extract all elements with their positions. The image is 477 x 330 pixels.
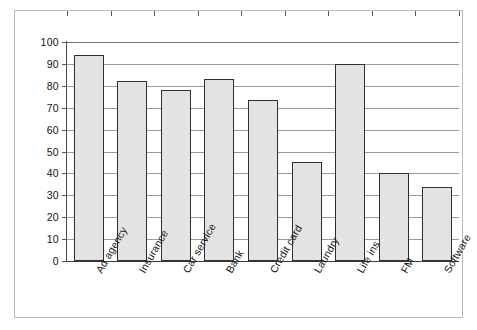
category-axis-tick: [415, 11, 416, 16]
value-axis-label: 20: [47, 211, 59, 223]
category-axis-tick: [328, 11, 329, 16]
value-axis-label: 10: [47, 233, 59, 245]
value-axis-label: 0: [53, 255, 59, 267]
bar-slot: [328, 42, 372, 261]
value-axis-label: 90: [47, 58, 59, 70]
value-axis-label: 40: [47, 167, 59, 179]
bar[interactable]: [379, 173, 409, 261]
bar[interactable]: [422, 187, 452, 261]
bar[interactable]: [248, 100, 278, 261]
value-axis-label: 100: [41, 36, 59, 48]
category-axis-tick: [241, 11, 242, 16]
value-axis-label: 80: [47, 80, 59, 92]
value-axis-label: 30: [47, 189, 59, 201]
bar-slot: [415, 42, 459, 261]
value-axis-label: 60: [47, 124, 59, 136]
category-axis-tick: [459, 11, 460, 16]
chart-frame: 0102030405060708090100 Ad agencyInsuranc…: [14, 10, 463, 318]
bar-slot: [67, 42, 111, 261]
category-axis-tick: [154, 11, 155, 16]
category-axis-tick: [111, 11, 112, 16]
bar-slot: [241, 42, 285, 261]
value-axis-label: 70: [47, 102, 59, 114]
category-axis-tick: [198, 11, 199, 16]
bar[interactable]: [335, 64, 365, 261]
category-axis-tick: [285, 11, 286, 16]
value-axis-label: 50: [47, 146, 59, 158]
bar[interactable]: [292, 162, 322, 261]
category-axis-tick: [372, 11, 373, 16]
category-axis-line: [67, 261, 459, 262]
category-axis-tick: [67, 11, 68, 16]
bar[interactable]: [74, 55, 104, 261]
bar-slot: [372, 42, 416, 261]
